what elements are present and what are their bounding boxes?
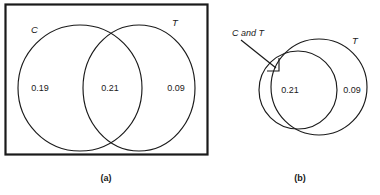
region-value-c-and-t: 0.21 [101,83,119,93]
set-t-label: T [172,17,179,28]
panel-a: C T 0.19 0.21 0.09 (a) [6,5,208,184]
annotation-leader-line [241,40,276,68]
set-c-label: C [31,24,38,35]
region-value-t-only: 0.09 [343,85,361,95]
region-value-c-only: 0.19 [31,83,49,93]
set-t-label: T [352,35,359,46]
venn-diagram-figure: C T 0.19 0.21 0.09 (a) T C and T 0.21 0.… [0,0,380,195]
panel-b: T C and T 0.21 0.09 (b) [232,28,367,183]
region-value-t-only: 0.09 [167,83,185,93]
intersection-annotation-label: C and T [232,28,266,38]
region-value-c-and-t: 0.21 [281,85,299,95]
panel-b-caption: (b) [294,173,306,183]
panel-a-caption: (a) [101,173,112,183]
